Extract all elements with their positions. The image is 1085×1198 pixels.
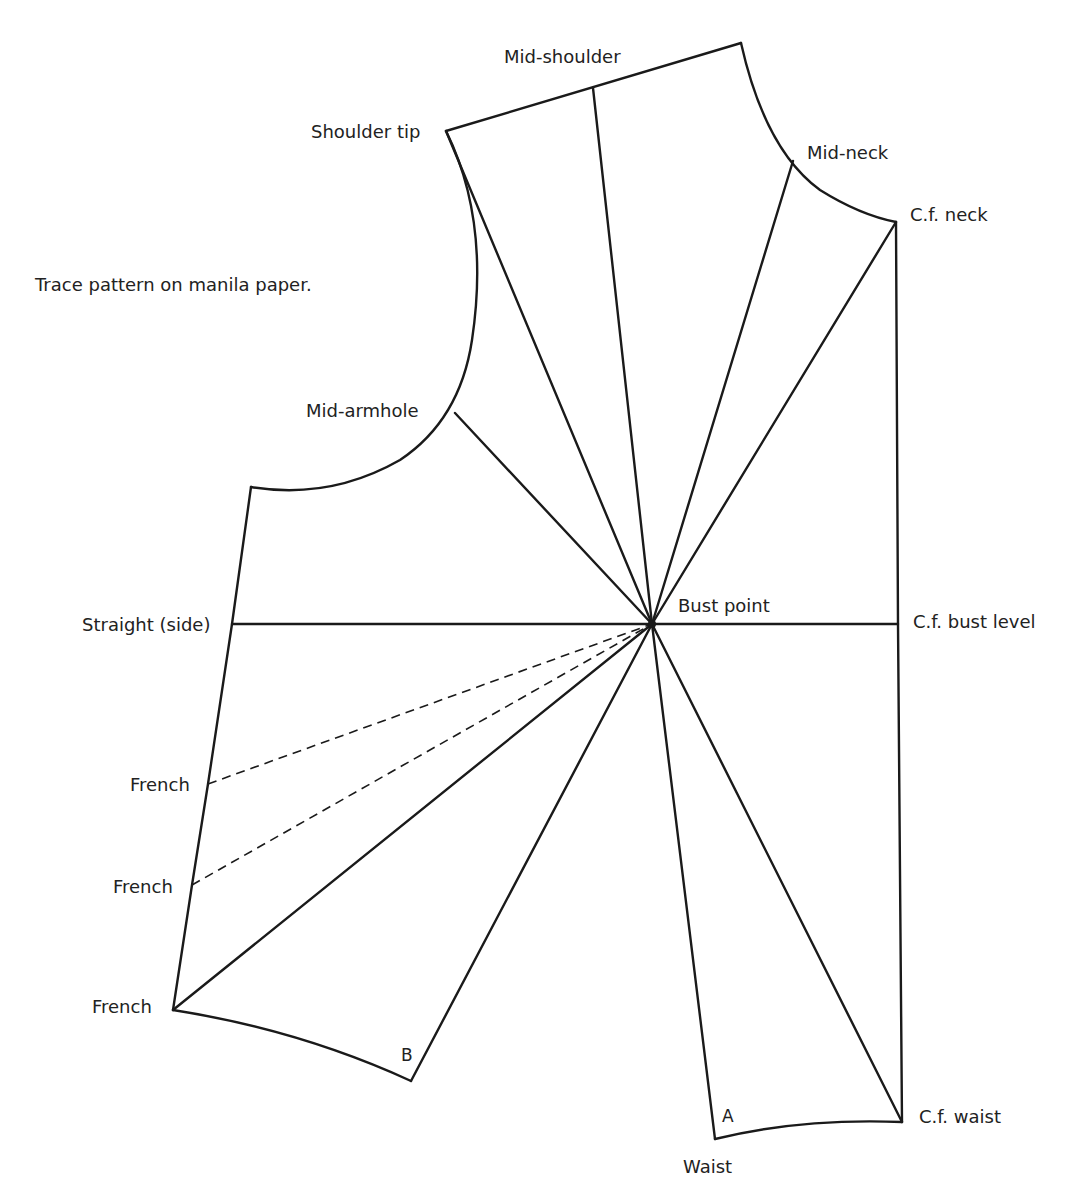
label-mid-shoulder: Mid-shoulder	[504, 48, 621, 66]
dart-a-leg	[652, 624, 715, 1139]
slash-shoulder-tip	[446, 131, 652, 624]
label-mid-neck: Mid-neck	[807, 144, 888, 162]
neckline-curve	[741, 43, 896, 222]
bust-point-marker	[648, 620, 656, 628]
label-cf-bust-level: C.f. bust level	[913, 613, 1036, 631]
bodice-pattern-diagram	[0, 0, 1085, 1198]
label-point-a: A	[722, 1108, 734, 1125]
label-waist: Waist	[683, 1158, 732, 1176]
armhole-curve	[251, 131, 477, 490]
slash-cf-waist	[652, 624, 902, 1122]
slash-mid-shoulder	[593, 88, 652, 624]
side-seam	[173, 487, 251, 1010]
slash-mid-neck	[652, 161, 793, 624]
waist-side-curve	[173, 1010, 411, 1081]
label-bust-point: Bust point	[678, 597, 770, 615]
label-point-b: B	[401, 1047, 413, 1064]
slash-cf-neck	[652, 222, 896, 624]
label-straight-side: Straight (side)	[82, 616, 210, 634]
center-front-line	[896, 222, 902, 1122]
label-cf-waist: C.f. waist	[919, 1108, 1001, 1126]
label-french-3: French	[92, 998, 152, 1016]
label-french-1: French	[130, 776, 190, 794]
dashed-french-1	[208, 624, 652, 784]
label-mid-armhole: Mid-armhole	[306, 402, 419, 420]
slash-french-3	[173, 624, 652, 1010]
slash-mid-armhole	[455, 413, 652, 624]
label-french-2: French	[113, 878, 173, 896]
waist-front-curve	[715, 1121, 902, 1139]
label-cf-neck: C.f. neck	[910, 206, 988, 224]
instruction-note: Trace pattern on manila paper.	[35, 276, 312, 294]
label-shoulder-tip: Shoulder tip	[311, 123, 420, 141]
